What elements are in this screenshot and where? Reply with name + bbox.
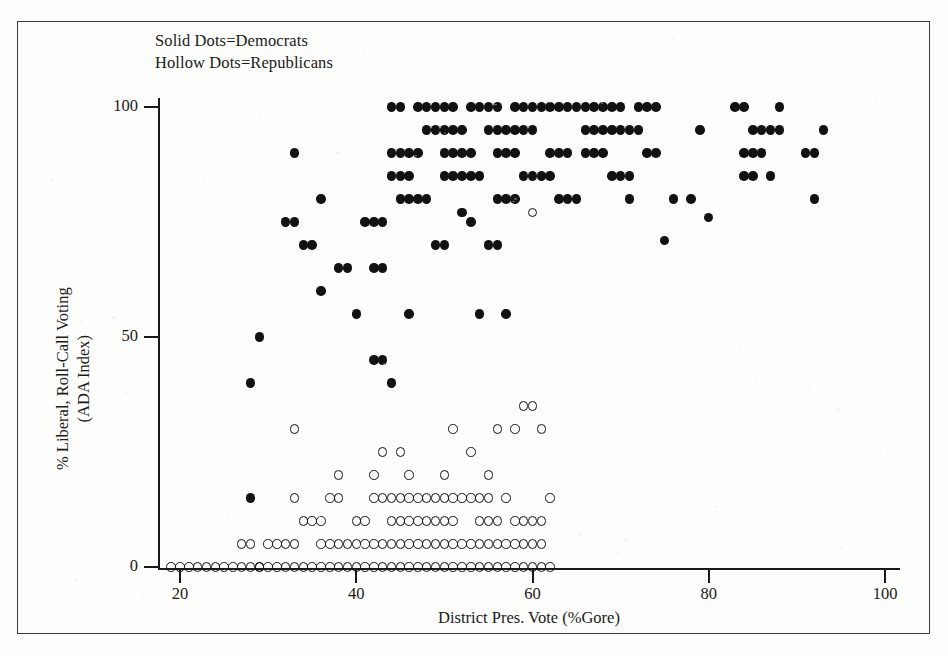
scan-speck bbox=[638, 74, 639, 76]
scan-speck bbox=[755, 377, 758, 378]
data-point-republican bbox=[387, 562, 396, 571]
data-point-democrat bbox=[378, 263, 387, 272]
data-point-republican bbox=[519, 516, 528, 525]
data-point-republican bbox=[343, 539, 352, 548]
scan-speck bbox=[142, 594, 144, 596]
data-point-democrat bbox=[484, 102, 493, 111]
legend: Solid Dots=Democrats Hollow Dots=Republi… bbox=[155, 30, 333, 74]
data-point-republican bbox=[404, 470, 413, 479]
y-tick-50 bbox=[144, 336, 159, 338]
scan-speck bbox=[294, 406, 295, 408]
scan-speck bbox=[886, 451, 889, 452]
data-point-democrat bbox=[422, 194, 431, 203]
data-point-republican bbox=[290, 562, 299, 571]
data-point-democrat bbox=[316, 286, 325, 295]
data-point-republican bbox=[537, 424, 546, 433]
data-point-democrat bbox=[431, 102, 440, 111]
scan-speck bbox=[143, 552, 145, 553]
data-point-democrat bbox=[748, 171, 757, 180]
y-tick-label-50: 50 bbox=[78, 326, 138, 346]
data-point-democrat bbox=[404, 309, 413, 318]
data-point-democrat bbox=[545, 171, 554, 180]
data-point-democrat bbox=[651, 102, 660, 111]
data-point-republican bbox=[184, 562, 193, 571]
scan-speck bbox=[514, 198, 517, 199]
x-tick-100 bbox=[884, 568, 886, 583]
data-point-republican bbox=[493, 424, 502, 433]
data-point-democrat bbox=[775, 102, 784, 111]
data-point-democrat bbox=[801, 148, 810, 157]
scan-speck bbox=[672, 37, 675, 38]
scan-speck bbox=[670, 58, 672, 60]
scan-speck bbox=[383, 363, 385, 365]
data-point-democrat bbox=[616, 102, 625, 111]
data-point-democrat bbox=[457, 125, 466, 134]
data-point-republican bbox=[475, 516, 484, 525]
data-point-democrat bbox=[387, 378, 396, 387]
data-point-republican bbox=[431, 562, 440, 571]
data-point-republican bbox=[237, 562, 246, 571]
y-axis-title-line1: % Liberal, Roll-Call Voting bbox=[52, 287, 73, 470]
data-point-republican bbox=[501, 493, 510, 502]
data-point-democrat bbox=[775, 125, 784, 134]
y-axis-title-line2: (ADA Index) bbox=[73, 287, 94, 470]
data-point-republican bbox=[519, 562, 528, 571]
data-point-democrat bbox=[246, 378, 255, 387]
data-point-republican bbox=[431, 516, 440, 525]
data-point-republican bbox=[334, 493, 343, 502]
y-tick-label-0: 0 bbox=[78, 556, 138, 576]
x-tick-label-80: 80 bbox=[679, 584, 739, 604]
scan-speck bbox=[188, 73, 189, 74]
data-point-republican bbox=[448, 516, 457, 525]
data-point-democrat bbox=[625, 125, 634, 134]
data-point-republican bbox=[246, 539, 255, 548]
data-point-democrat bbox=[475, 171, 484, 180]
data-point-democrat bbox=[290, 217, 299, 226]
data-point-republican bbox=[545, 562, 554, 571]
data-point-republican bbox=[202, 562, 211, 571]
data-point-democrat bbox=[255, 332, 264, 341]
data-point-republican bbox=[484, 470, 493, 479]
data-point-democrat bbox=[466, 217, 475, 226]
data-point-democrat bbox=[378, 217, 387, 226]
data-point-republican bbox=[448, 424, 457, 433]
scan-speck bbox=[418, 209, 419, 211]
scan-speck bbox=[533, 264, 535, 266]
data-point-republican bbox=[528, 516, 537, 525]
data-point-democrat bbox=[651, 148, 660, 157]
data-point-democrat bbox=[810, 194, 819, 203]
data-point-democrat bbox=[246, 493, 255, 502]
scan-speck bbox=[740, 204, 741, 206]
x-tick-label-20: 20 bbox=[150, 584, 210, 604]
data-point-democrat bbox=[757, 125, 766, 134]
data-point-republican bbox=[519, 539, 528, 548]
data-point-democrat bbox=[501, 309, 510, 318]
data-point-democrat bbox=[572, 102, 581, 111]
data-point-democrat bbox=[634, 125, 643, 134]
data-point-republican bbox=[290, 493, 299, 502]
data-point-democrat bbox=[343, 263, 352, 272]
legend-item-democrats: Solid Dots=Democrats bbox=[155, 30, 333, 52]
data-point-democrat bbox=[510, 148, 519, 157]
data-point-republican bbox=[440, 470, 449, 479]
data-point-democrat bbox=[387, 148, 396, 157]
scan-speck bbox=[106, 584, 108, 585]
scan-speck bbox=[364, 54, 365, 56]
scan-speck bbox=[837, 408, 840, 410]
data-point-democrat bbox=[757, 148, 766, 157]
data-point-republican bbox=[281, 539, 290, 548]
data-point-democrat bbox=[810, 148, 819, 157]
data-point-democrat bbox=[669, 194, 678, 203]
scan-speck bbox=[359, 545, 361, 547]
data-point-republican bbox=[334, 470, 343, 479]
scan-speck bbox=[336, 152, 339, 154]
scan-speck bbox=[624, 538, 626, 540]
data-point-republican bbox=[255, 562, 264, 571]
data-point-democrat bbox=[625, 171, 634, 180]
data-point-republican bbox=[431, 493, 440, 502]
data-point-democrat bbox=[448, 102, 457, 111]
data-point-republican bbox=[246, 562, 255, 571]
data-point-republican bbox=[343, 562, 352, 571]
data-point-republican bbox=[537, 539, 546, 548]
data-point-democrat bbox=[616, 125, 625, 134]
